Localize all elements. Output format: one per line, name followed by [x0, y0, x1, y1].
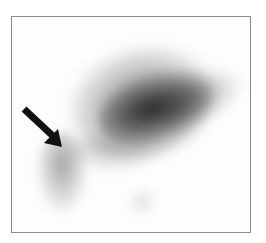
faint-spot	[127, 187, 157, 217]
scan-frame	[11, 16, 251, 233]
arrow-icon	[20, 105, 70, 155]
